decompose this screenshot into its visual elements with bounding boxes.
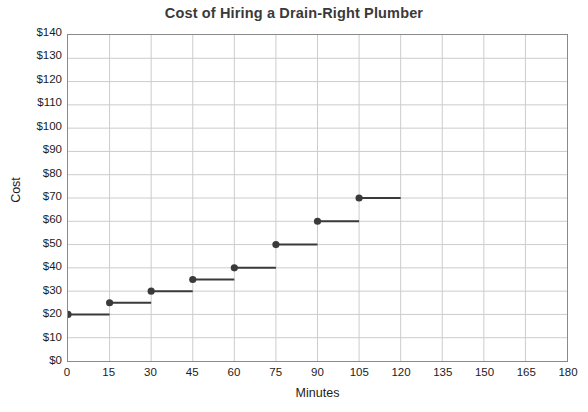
x-tick-label: 135 — [423, 366, 463, 378]
x-tick-label: 150 — [465, 366, 505, 378]
x-tick-label: 45 — [172, 366, 212, 378]
x-tick-label: 180 — [548, 366, 588, 378]
y-tick-label: $110 — [0, 96, 62, 108]
x-tick-label: 120 — [381, 366, 421, 378]
x-axis-label: Minutes — [67, 386, 568, 400]
step-function-series — [68, 35, 567, 361]
y-tick-label: $90 — [0, 143, 62, 155]
x-tick-label: 90 — [298, 366, 338, 378]
x-tick-label: 75 — [256, 366, 296, 378]
y-tick-label: $30 — [0, 284, 62, 296]
x-tick-label: 0 — [47, 366, 87, 378]
chart-title: Cost of Hiring a Drain-Right Plumber — [0, 5, 588, 21]
y-tick-label: $70 — [0, 190, 62, 202]
y-tick-label: $60 — [0, 213, 62, 225]
y-tick-label: $40 — [0, 260, 62, 272]
plot-area — [67, 34, 568, 362]
y-tick-label: $140 — [0, 26, 62, 38]
y-tick-label: $80 — [0, 167, 62, 179]
y-tick-label: $130 — [0, 49, 62, 61]
x-tick-label: 15 — [89, 366, 129, 378]
y-tick-label: $50 — [0, 237, 62, 249]
x-tick-label: 60 — [214, 366, 254, 378]
y-tick-label: $10 — [0, 331, 62, 343]
x-tick-label: 165 — [506, 366, 546, 378]
y-tick-label: $0 — [0, 354, 62, 366]
y-tick-label: $20 — [0, 307, 62, 319]
chart-figure: Cost of Hiring a Drain-Right Plumber Cos… — [0, 0, 588, 412]
x-tick-label: 30 — [131, 366, 171, 378]
x-tick-label: 105 — [339, 366, 379, 378]
y-tick-label: $120 — [0, 73, 62, 85]
y-tick-label: $100 — [0, 120, 62, 132]
